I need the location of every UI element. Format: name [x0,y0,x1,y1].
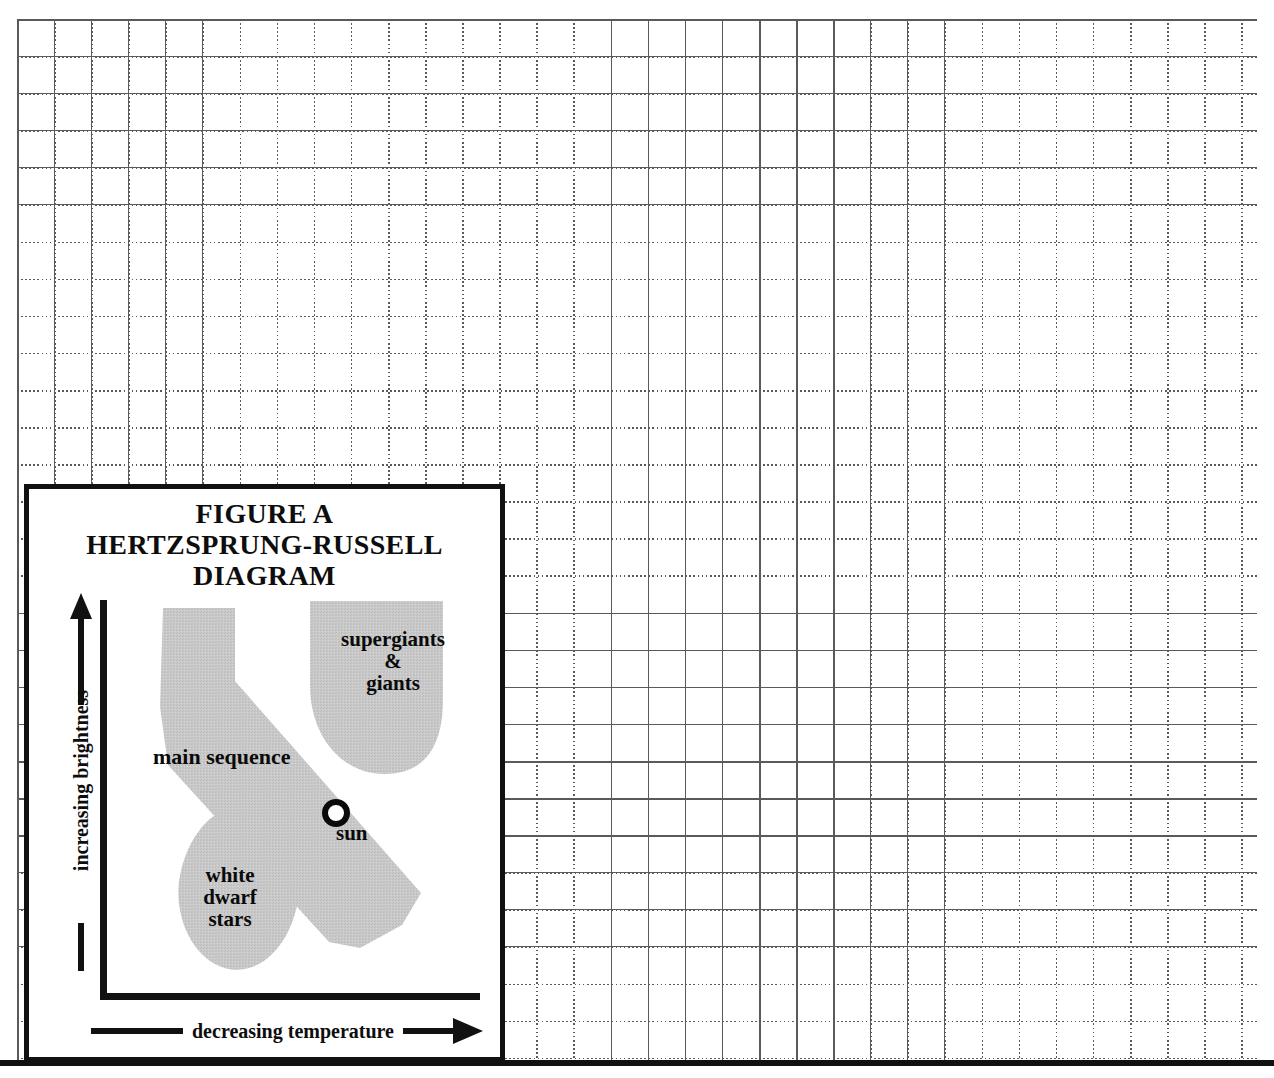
x-axis-spine [100,993,480,1000]
y-axis-label-group: increasing brightness [65,593,95,1003]
label-main-sequence: main sequence [153,746,291,769]
y-axis-caption: increasing brightness [70,661,93,901]
label-supergiants-giants: supergiants & giants [317,629,469,694]
y-axis-dash [78,923,84,971]
figure-a-box: FIGURE A HERTZSPRUNG-RUSSELL DIAGRAM [24,484,505,1062]
label-white-dwarf-stars: white dwarf stars [180,865,280,930]
x-axis-caption: decreasing temperature [183,1020,403,1043]
right-arrow-head [453,1018,483,1044]
y-axis-spine [100,600,107,1000]
x-axis-dash [91,1028,183,1034]
label-supergiants-line-3: giants [317,673,469,695]
right-arrow-stem [403,1028,459,1034]
label-white-dwarf-line-2: dwarf [180,887,280,909]
label-supergiants-line-1: supergiants [317,629,469,651]
label-supergiants-line-2: & [317,651,469,673]
hr-diagram-plot: increasing brightness decreasing tempera… [29,489,510,1067]
label-sun: sun [336,823,368,845]
right-arrow-icon [403,1018,487,1044]
x-axis-label-group: decreasing temperature [91,1016,491,1046]
graph-paper-page: FIGURE A HERTZSPRUNG-RUSSELL DIAGRAM [0,0,1274,1078]
label-white-dwarf-line-3: stars [180,909,280,931]
label-white-dwarf-line-1: white [180,865,280,887]
